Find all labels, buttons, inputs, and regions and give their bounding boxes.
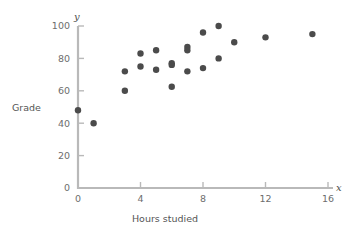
x-axis-group: 0481216 bbox=[75, 182, 334, 204]
data-point bbox=[231, 39, 237, 45]
data-point bbox=[215, 55, 221, 61]
x-tick-label: 12 bbox=[259, 193, 271, 204]
data-point bbox=[169, 84, 175, 90]
y-tick-label: 60 bbox=[58, 85, 70, 96]
x-tick-label: 8 bbox=[200, 193, 206, 204]
data-point bbox=[153, 67, 159, 73]
y-tick-label: 80 bbox=[58, 53, 70, 64]
data-point bbox=[137, 63, 143, 69]
data-point bbox=[75, 107, 81, 113]
x-tick-label: 0 bbox=[75, 193, 81, 204]
data-point bbox=[184, 47, 190, 53]
data-point bbox=[153, 47, 159, 53]
y-axis-title: Grade bbox=[12, 102, 41, 113]
data-points-group bbox=[75, 23, 316, 127]
data-point bbox=[215, 23, 221, 29]
data-point bbox=[200, 65, 206, 71]
data-point bbox=[262, 34, 268, 40]
data-point bbox=[122, 68, 128, 74]
y-tick-label: 100 bbox=[52, 20, 70, 31]
x-tick-label: 4 bbox=[137, 193, 143, 204]
data-point bbox=[122, 88, 128, 94]
y-tick-label: 20 bbox=[58, 150, 70, 161]
y-tick-label: 0 bbox=[64, 182, 70, 193]
y-axis-variable-symbol: y bbox=[73, 11, 80, 22]
x-axis-title: Hours studied bbox=[132, 213, 198, 224]
data-point bbox=[90, 120, 96, 126]
data-point bbox=[309, 31, 315, 37]
x-axis-variable-symbol: x bbox=[336, 182, 342, 193]
y-tick-label: 40 bbox=[58, 118, 70, 129]
x-tick-label: 16 bbox=[322, 193, 334, 204]
plot-canvas: 020406080100 0481216 y x Grade Hours stu… bbox=[0, 0, 353, 231]
y-axis-ticks: 020406080100 bbox=[52, 20, 84, 193]
data-point bbox=[137, 50, 143, 56]
data-point bbox=[169, 62, 175, 68]
scatter-plot-figure: 020406080100 0481216 y x Grade Hours stu… bbox=[0, 0, 353, 231]
data-point bbox=[200, 29, 206, 35]
data-point bbox=[184, 68, 190, 74]
y-axis-group: 020406080100 bbox=[52, 20, 84, 193]
x-axis-ticks: 0481216 bbox=[75, 182, 334, 204]
